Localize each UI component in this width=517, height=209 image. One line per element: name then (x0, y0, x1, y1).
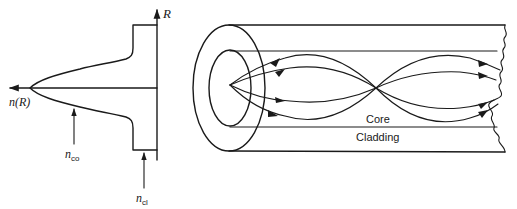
ray-a-arrow (270, 58, 280, 67)
ray-d (230, 55, 500, 119)
ray-a-exit-arrow (478, 110, 488, 118)
ray-d-exit-arrow (478, 60, 488, 67)
ray-b (230, 67, 494, 109)
core-label: Core (366, 113, 390, 125)
ray-c-arrow (275, 97, 285, 103)
cladding-label: Cladding (356, 131, 399, 143)
ray-bundle (230, 55, 500, 122)
fiber-diagram: R n(R) nco ncl (0, 0, 517, 209)
ray-c-exit-arrow (478, 72, 488, 79)
ray-b-exit-arrow (478, 102, 488, 109)
